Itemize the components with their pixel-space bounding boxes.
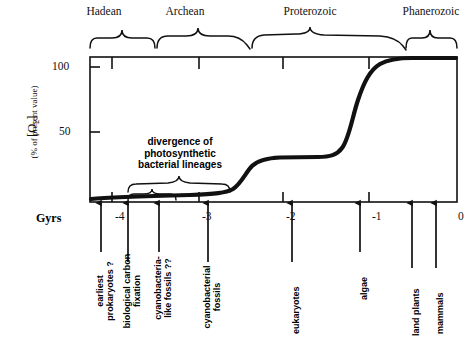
event-label-2-line2: like fossils ?? [163,246,173,330]
event-label-algae: algae [359,254,369,300]
event-label-0-line2: prokaryotes ? [105,252,115,330]
oxygen-history-figure: Hadean Archean Proterozoic Phanerozoic [0,0,473,345]
event-label-cyanobacterial-fossils: cyanobacterial fossils [202,254,222,340]
event-arrows [0,0,473,345]
event-label-6-line1: land plants [411,270,421,336]
event-label-mammals: mammals [435,270,445,334]
event-label-3-line2: fossils [212,254,222,340]
event-label-land-plants: land plants [411,270,421,336]
event-label-biological-carbon-fixation: biological carbon fixation [122,242,142,340]
event-label-2-line1: cyanobacteria- [153,246,163,330]
event-label-earliest-prokaryotes: earliest prokaryotes ? [95,252,115,330]
event-label-0-line1: earliest [95,252,105,330]
event-label-1-line2: fixation [132,242,142,340]
event-label-4-line1: eukaryotes [291,268,301,334]
event-label-7-line1: mammals [435,270,445,334]
event-label-cyanobacteria-like-fossils: cyanobacteria- like fossils ?? [153,246,173,330]
event-label-3-line1: cyanobacterial [202,254,212,340]
event-label-5-line1: algae [359,254,369,300]
event-label-1-line1: biological carbon [122,242,132,340]
event-label-eukaryotes: eukaryotes [291,268,301,334]
